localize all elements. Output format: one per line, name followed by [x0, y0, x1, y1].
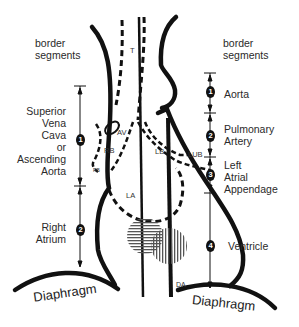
label-line: Appendage	[224, 183, 278, 195]
left-segment-1-label: Superior Vena Cava or Ascending Aorta	[10, 105, 66, 177]
label-line: Vena	[10, 117, 66, 129]
left-header: border segments	[35, 37, 81, 61]
left-header-line1: border	[35, 37, 81, 49]
label-line: Atrium	[10, 233, 66, 245]
right-segment-2-badge: 2	[206, 130, 215, 142]
right-lower-bronchus-label: RB	[93, 167, 100, 173]
right-segment-3-label: Left Atrial Appendage	[224, 159, 278, 195]
left-atrium-label: LA	[126, 191, 135, 200]
label-line: Aorta	[10, 165, 66, 177]
left-segment-2-label: Right Atrium	[10, 221, 66, 245]
right-upper-branch	[93, 124, 101, 172]
left-atrium-outline	[109, 168, 183, 222]
label-line: or	[10, 141, 66, 153]
right-header-line2: segments	[223, 49, 269, 61]
right-header-line1: border	[223, 37, 269, 49]
diaphragm-left-label: Diaphragm	[32, 281, 97, 305]
left-bronchus-label: LB	[155, 147, 164, 156]
left-segment-arrows	[74, 86, 86, 267]
left-upper-bronchus-label: LUB	[188, 150, 203, 159]
descending-aorta-wall	[168, 118, 171, 297]
right-segment-1-label: Aorta	[224, 88, 249, 100]
label-line: Ventricle	[228, 240, 268, 252]
descending-aorta-label: DA	[176, 281, 186, 288]
left-segment-1-badge: 1	[76, 134, 85, 146]
chest-border-segments-diagram: Diaphragm Diaphragm border segments bord…	[0, 0, 299, 327]
label-line: Pulmonary	[224, 123, 274, 135]
right-segment-4-label: Ventricle	[228, 240, 268, 252]
right-segment-1-badge: 1	[206, 86, 215, 98]
right-segment-3-badge: 3	[206, 169, 215, 181]
label-line: Right	[10, 221, 66, 233]
label-line: Cava	[10, 129, 66, 141]
label-line: Atrial	[224, 171, 278, 183]
right-segment-4-badge: 4	[206, 240, 215, 252]
label-line: Artery	[224, 135, 274, 147]
label-line: Left	[224, 159, 278, 171]
right-bronchus-label: RB	[104, 146, 114, 155]
label-line: Aorta	[224, 88, 249, 100]
left-header-line2: segments	[35, 49, 81, 61]
trachea-label: T	[130, 46, 135, 55]
left-segment-2-badge: 2	[76, 224, 85, 236]
label-line: Ascending	[10, 153, 66, 165]
label-line: Superior	[10, 105, 66, 117]
azygos-vein-label: AV	[117, 128, 126, 137]
right-segment-2-label: Pulmonary Artery	[224, 123, 274, 147]
right-header: border segments	[223, 37, 269, 61]
diaphragm-right-label: Diaphragm	[191, 292, 256, 314]
hatched-density-right	[151, 228, 187, 264]
